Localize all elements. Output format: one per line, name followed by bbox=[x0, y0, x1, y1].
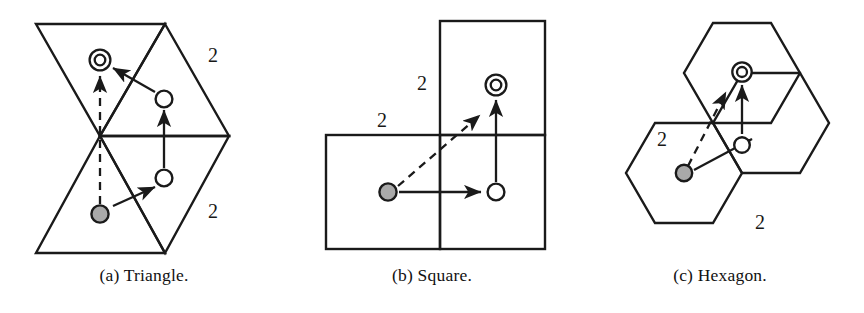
source-marker bbox=[676, 165, 692, 181]
square-diagram: 2 2 bbox=[288, 0, 576, 265]
source-marker bbox=[91, 205, 108, 222]
source-marker bbox=[379, 183, 396, 200]
caption-hexagon: (c) Hexagon. bbox=[673, 267, 767, 285]
subfigure-triangle: 2 2 (a) Triangle. bbox=[0, 0, 288, 313]
subfigure-hexagon: 2 2 (c) Hexagon. bbox=[576, 0, 864, 313]
target-marker-inner-ring bbox=[737, 67, 747, 77]
edge-label-upper: 2 bbox=[208, 44, 218, 66]
edge-label-horizontal: 2 bbox=[377, 109, 387, 131]
target-marker-inner-ring bbox=[491, 80, 502, 91]
triangle-arrow-3 bbox=[113, 68, 155, 92]
caption-square: (b) Square. bbox=[392, 267, 472, 285]
triangle-tiling bbox=[36, 24, 229, 253]
triangle-arrow-1 bbox=[113, 187, 155, 206]
open-circle-marker-lower bbox=[156, 170, 173, 187]
hexagon-tiling bbox=[626, 23, 829, 223]
triangle-cell-lower-left bbox=[36, 136, 165, 253]
subfigure-square: 2 2 (b) Square. bbox=[288, 0, 576, 313]
edge-label-lower-right: 2 bbox=[755, 211, 765, 233]
square-markers bbox=[379, 75, 506, 201]
edge-label-lower: 2 bbox=[208, 200, 218, 222]
edge-label-upper-left: 2 bbox=[657, 128, 667, 150]
caption-triangle: (a) Triangle. bbox=[99, 267, 188, 285]
hexagon-diagram: 2 2 bbox=[576, 0, 864, 265]
open-circle-marker bbox=[488, 184, 505, 201]
figure-row: 2 2 (a) Triangle. bbox=[0, 0, 864, 313]
edge-label-vertical: 2 bbox=[417, 72, 427, 94]
open-circle-marker-upper bbox=[156, 91, 173, 108]
target-marker-inner-ring bbox=[95, 55, 106, 66]
square-tiling bbox=[326, 21, 545, 249]
open-circle-marker bbox=[734, 137, 750, 153]
triangle-diagram: 2 2 bbox=[0, 0, 288, 265]
